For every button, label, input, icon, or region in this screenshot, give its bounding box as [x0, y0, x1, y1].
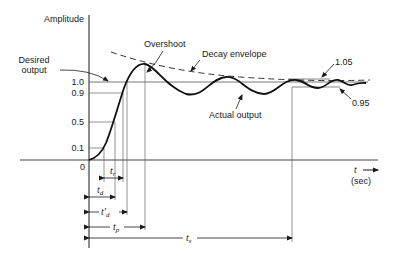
- upper-band-label: 1.05: [335, 57, 353, 67]
- desired-output-arrow: [60, 70, 108, 81]
- x-axis-label: t: [354, 164, 357, 175]
- tick-0.9: 0.9: [71, 88, 84, 98]
- step-response-diagram: 1.0 0.9 0.5 0.1 0 Amplitude t (sec) Desi…: [0, 0, 400, 261]
- desired-output-label-1: Desired: [18, 55, 49, 65]
- overshoot-label: Overshoot: [144, 39, 186, 49]
- tick-1.0: 1.0: [71, 77, 84, 87]
- desired-output-label-2: output: [21, 65, 47, 75]
- x-axis-unit: (sec): [351, 176, 371, 186]
- decay-envelope-arrow: [191, 60, 200, 71]
- y-axis-label: Amplitude: [44, 14, 84, 24]
- delay-time-label: td: [97, 184, 104, 197]
- lower-band-arrow: [340, 89, 351, 99]
- actual-output-label: Actual output: [209, 110, 262, 120]
- origin-label: 0: [80, 162, 85, 172]
- lower-band-label: 0.95: [352, 98, 370, 108]
- tick-0.1: 0.1: [71, 143, 84, 153]
- overshoot-arrow: [147, 51, 163, 72]
- decay-envelope-label: Decay envelope: [202, 49, 267, 59]
- upper-band-arrow: [322, 64, 334, 77]
- actual-output-arrow: [236, 95, 242, 109]
- tick-0.5: 0.5: [71, 117, 84, 127]
